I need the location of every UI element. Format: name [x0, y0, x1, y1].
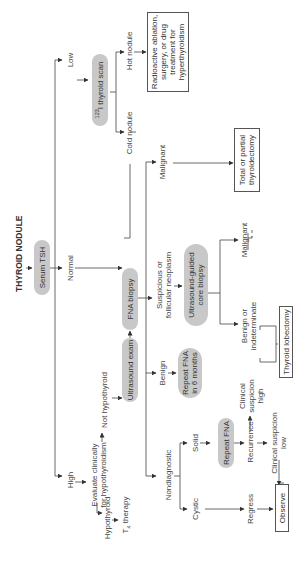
- node-radioactive-treatment: Radioactive ablation, surgery, or drug t…: [147, 12, 189, 92]
- diagram-title: THYROID NODULE: [14, 216, 24, 293]
- label-solid: Solid: [191, 432, 200, 454]
- thyroid-scan-label: 123I thyroid scan: [96, 62, 105, 119]
- label-cystic: Cystic: [191, 496, 200, 522]
- node-total-thyroidectomy: Total or partial thyroidectomy: [234, 128, 260, 192]
- node-ultrasound-core-biopsy: Ultrasound-guided core biopsy: [184, 244, 208, 326]
- label-low: Low: [66, 50, 75, 70]
- node-observe: Observe: [275, 484, 289, 532]
- node-ultrasound-exam: Ultrasound exam: [122, 338, 138, 402]
- label-not-hypothyroid: Not hypothyroid: [100, 368, 109, 432]
- node-repeat-fna: Repeat FNA: [218, 418, 234, 468]
- label-hypothyroid: Hypothyroid: [103, 496, 112, 540]
- label-t4-therapy: T4 therapy: [121, 490, 130, 540]
- node-thyroid-scan: 123I thyroid scan: [92, 54, 108, 126]
- label-hot-nodule: Hot nodule: [125, 30, 134, 72]
- label-high: High: [66, 470, 75, 490]
- label-cold-nodule: Cold nodule: [125, 110, 134, 156]
- node-fna-biopsy: FNA biopsy: [122, 268, 138, 330]
- label-normal: Normal: [66, 253, 75, 283]
- label-clinical-suspicion-low: Clinical suspicion low: [270, 410, 288, 476]
- label-recurrence: Recurrence: [246, 420, 255, 464]
- node-thyroid-lobectomy: Thyroid lobectomy: [279, 306, 293, 378]
- label-benign: Benign: [158, 358, 167, 388]
- flowchart-canvas: THYROID NODULE Serum TSH Low Normal High…: [0, 0, 307, 568]
- label-malignant-top: Malignant: [158, 140, 167, 184]
- label-nondiagnostic: Nondiagnostic: [164, 448, 173, 502]
- label-malignant-mid: Malignant: [240, 218, 249, 262]
- label-clinical-suspicion-high: Clinical suspicion high: [238, 376, 265, 416]
- label-suspicious: Suspicious or follicular neoplasm: [155, 246, 173, 324]
- node-repeat-fna-6-months: Repeat FNA in 6 months: [178, 348, 202, 398]
- label-regress: Regress: [246, 492, 255, 526]
- label-benign-indeterminate: Benign or indeterminate: [240, 296, 258, 356]
- node-serum-tsh: Serum TSH: [34, 240, 50, 295]
- serum-tsh-label: Serum TSH: [38, 247, 47, 289]
